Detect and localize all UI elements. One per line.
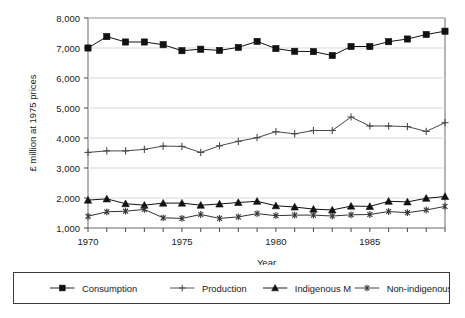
y-axis-tick-label: 1,000 [56,223,80,234]
legend-item-indigenous-m[interactable]: Indigenous M [263,284,351,294]
line-chart: 1,0002,0003,0004,0005,0006,0007,0008,000… [0,0,465,265]
legend-label: Non-indigenous [387,284,449,294]
y-axis-tick-label: 6,000 [56,73,80,84]
legend-item-consumption[interactable]: Consumption [50,284,137,294]
marker-square [329,52,335,58]
legend-label: Production [202,284,247,294]
marker-square [85,45,91,51]
marker-square [310,49,316,55]
legend-label: Consumption [82,284,137,294]
marker-square [160,42,166,48]
y-axis-tick-label: 8,000 [56,13,80,24]
y-axis-tick-label: 7,000 [56,43,80,54]
y-axis-tick-label: 5,000 [56,103,80,114]
marker-square [273,46,279,52]
y-axis-tick-label: 4,000 [56,133,80,144]
figure: 1,0002,0003,0004,0005,0006,0007,0008,000… [0,0,465,318]
y-axis-tick-label: 2,000 [56,193,80,204]
y-axis-title: £ million at 1975 prices [27,74,38,171]
marker-square [122,39,128,45]
marker-square [235,44,241,50]
marker-square [59,285,65,291]
plot-frame [88,18,445,228]
x-axis-title: Year [257,257,276,265]
y-axis-tick-label: 3,000 [56,163,80,174]
marker-square [404,36,410,42]
chart-plot-area: 1,0002,0003,0004,0005,0006,0007,0008,000… [0,0,465,265]
marker-square [216,47,222,53]
marker-square [198,46,204,52]
marker-square [254,38,260,44]
x-axis-tick-label: 1975 [171,236,192,247]
legend-item-production[interactable]: Production [170,284,247,294]
marker-square [141,39,147,45]
marker-square [292,48,298,54]
marker-square [348,43,354,49]
x-axis-tick-label: 1985 [359,236,380,247]
marker-square [104,34,110,40]
legend-label: Indigenous M [295,284,351,294]
marker-square [367,43,373,49]
marker-square [386,39,392,45]
legend-content: ConsumptionProductionIndigenous MNon-ind… [14,273,449,303]
x-axis-tick-label: 1980 [265,236,286,247]
marker-square [179,48,185,54]
marker-square [442,28,448,34]
legend-item-non-indigenous[interactable]: Non-indigenous [355,284,449,294]
marker-square [423,31,429,37]
chart-legend: ConsumptionProductionIndigenous MNon-ind… [13,272,450,304]
x-axis-tick-label: 1970 [77,236,98,247]
